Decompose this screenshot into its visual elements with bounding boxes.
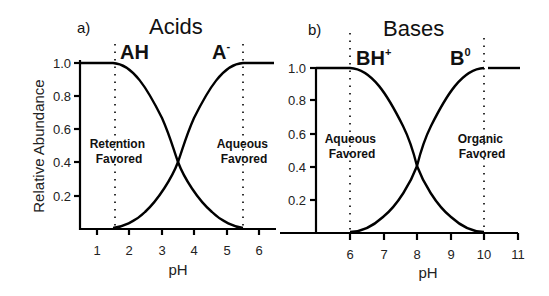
species-label-BH-plus: BH+ (356, 46, 391, 69)
y-tick-label: 1.0 (53, 56, 71, 71)
y-axis-title: Relative Abundance (30, 79, 47, 212)
panel-b-letter: b) (308, 21, 321, 38)
x-tick-label: 8 (413, 247, 420, 262)
panel-a-letter: a) (77, 19, 90, 36)
panel-b-x-ticks: 6 7 8 9 10 11 (346, 233, 524, 262)
region-label-retention-favored: Retention Favored (90, 137, 149, 166)
x-tick-label: 1 (93, 243, 100, 258)
panel-a-y-ticks: 1.0 0.8 0.6 0.4 0.2 (53, 56, 80, 204)
x-tick-label: 10 (477, 247, 491, 262)
species-label-A-minus: A- (212, 40, 230, 63)
y-tick-label: 0.4 (53, 155, 71, 170)
x-tick-label: 9 (447, 247, 454, 262)
panel-b-title: Bases (383, 16, 444, 41)
panel-b-bases: b) Bases 1.0 0.8 0.6 0.4 0.2 6 7 (280, 16, 525, 281)
panel-a-x-ticks: 1 2 3 4 5 6 (93, 229, 262, 258)
x-tick-label: 6 (255, 243, 262, 258)
region-label-organic-favored: Organic Favored (458, 132, 507, 161)
x-tick-label: 6 (346, 247, 353, 262)
y-tick-label: 1.0 (288, 61, 306, 76)
x-tick-label: 5 (223, 243, 230, 258)
region-label-aqueous-favored: Aqueous Favored (325, 132, 380, 161)
x-tick-label: 7 (380, 247, 387, 262)
y-tick-label: 0.4 (288, 160, 306, 175)
x-tick-label: 11 (511, 247, 525, 262)
panel-a-x-axis-title: pH (168, 261, 187, 278)
x-tick-label: 4 (190, 243, 197, 258)
figure: a) Acids Relative Abundance 1.0 0.8 0.6 … (0, 0, 549, 296)
y-tick-label: 0.8 (288, 93, 306, 108)
x-tick-label: 2 (125, 243, 132, 258)
y-tick-label: 0.2 (288, 193, 306, 208)
species-label-AH: AH (120, 41, 149, 63)
region-label-aqueous-favored: Aqueous Favored (217, 137, 272, 166)
species-label-B0: B0 (450, 46, 471, 69)
y-tick-label: 0.6 (288, 127, 306, 142)
y-tick-label: 0.6 (53, 122, 71, 137)
x-tick-label: 3 (158, 243, 165, 258)
y-tick-label: 0.8 (53, 89, 71, 104)
panel-a-acids: a) Acids Relative Abundance 1.0 0.8 0.6 … (30, 14, 276, 278)
panel-b-y-ticks: 1.0 0.8 0.6 0.4 0.2 (288, 61, 316, 208)
panel-b-x-axis-title: pH (418, 264, 437, 281)
y-tick-label: 0.2 (53, 189, 71, 204)
panel-a-title: Acids (149, 14, 203, 39)
